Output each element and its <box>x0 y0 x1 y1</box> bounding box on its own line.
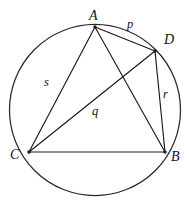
vertex-label-A: A <box>89 9 98 23</box>
segment-label-r: r <box>163 88 168 101</box>
vertex-dot-C <box>27 150 30 153</box>
vertex-label-D: D <box>164 33 174 47</box>
vertex-label-C: C <box>10 148 19 162</box>
segment-label-s: s <box>44 76 49 89</box>
geometry-figure: A D B C p s q r <box>0 0 189 207</box>
segment-label-q: q <box>92 105 98 118</box>
vertex-dot-D <box>153 49 156 52</box>
vertex-dot-A <box>93 25 96 28</box>
segment-label-p: p <box>127 18 133 31</box>
segment-AB <box>95 27 165 152</box>
vertex-dot-B <box>163 150 166 153</box>
vertex-label-B: B <box>171 150 180 164</box>
